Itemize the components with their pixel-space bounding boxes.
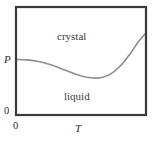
y-axis-label: P — [4, 54, 11, 65]
phase-diagram-figure: P T 0 0 crystal liquid — [0, 0, 154, 143]
y-axis-origin-tick-label: 0 — [4, 106, 9, 117]
x-axis-label: T — [75, 123, 81, 134]
region-label-liquid: liquid — [64, 91, 90, 102]
region-label-crystal: crystal — [57, 31, 86, 42]
x-axis-origin-tick-label: 0 — [13, 121, 18, 132]
